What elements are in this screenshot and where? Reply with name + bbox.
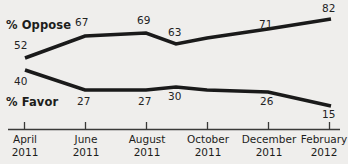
- x-axis-label-april: April 2011: [0, 133, 50, 158]
- x-axis-label-december: December 2011: [235, 133, 303, 158]
- value-label-favor-september-high: 30: [168, 90, 181, 102]
- value-label-oppose-june: 67: [75, 16, 88, 28]
- value-label-favor-february: 15: [322, 108, 335, 120]
- value-label-oppose-april: 52: [14, 39, 27, 51]
- x-axis-label-february-year: 2012: [300, 146, 348, 159]
- x-axis-label-october-year: 2011: [180, 146, 236, 159]
- x-axis-label-february-month: February: [300, 133, 348, 146]
- series-label-favor: % Favor: [6, 95, 58, 109]
- series-label-oppose: % Oppose: [6, 18, 71, 32]
- x-axis-label-october: October 2011: [180, 133, 236, 158]
- value-label-favor-august: 27: [138, 95, 151, 107]
- value-label-oppose-august: 69: [137, 14, 150, 26]
- x-axis-label-june: June 2011: [61, 133, 111, 158]
- x-axis-label-february: February 2012: [300, 133, 348, 158]
- x-axis-label-april-month: April: [0, 133, 50, 146]
- value-label-favor-april: 40: [14, 75, 27, 87]
- x-axis-label-april-year: 2011: [0, 146, 50, 159]
- x-axis-label-december-year: 2011: [235, 146, 303, 159]
- value-label-oppose-september-low: 63: [168, 26, 181, 38]
- x-axis-label-october-month: October: [180, 133, 236, 146]
- value-label-oppose-february: 82: [322, 2, 335, 14]
- x-axis-label-august: August 2011: [119, 133, 175, 158]
- x-axis-label-december-month: December: [235, 133, 303, 146]
- x-axis-ticks: [25, 122, 330, 129]
- value-label-oppose-december: 71: [259, 18, 272, 30]
- line-chart: % Oppose % Favor 52 67 69 63 71 82 40 27…: [0, 0, 348, 164]
- value-label-favor-december: 26: [260, 95, 273, 107]
- x-axis-label-august-year: 2011: [119, 146, 175, 159]
- x-axis-label-june-year: 2011: [61, 146, 111, 159]
- x-axis-label-august-month: August: [119, 133, 175, 146]
- x-axis-label-june-month: June: [61, 133, 111, 146]
- value-label-favor-june: 27: [77, 95, 90, 107]
